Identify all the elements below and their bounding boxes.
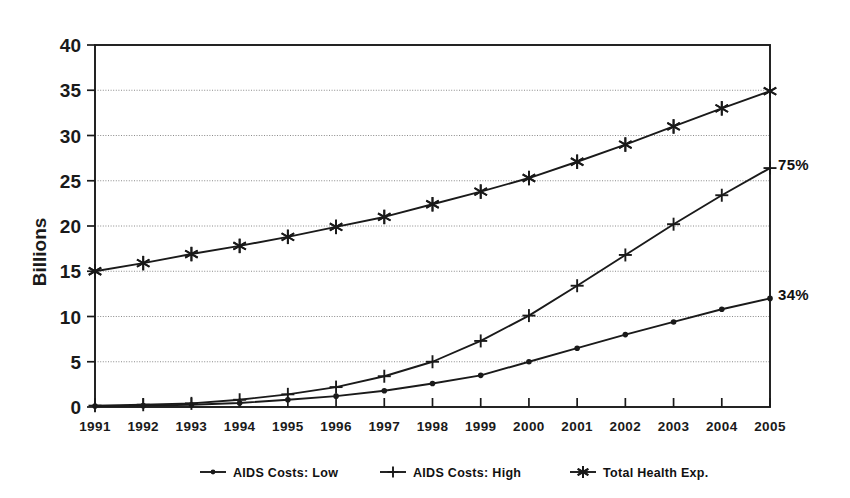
- x-tick-label: 2000: [513, 419, 545, 434]
- marker-dot: [671, 319, 677, 325]
- annotation-label: 75%: [778, 156, 809, 173]
- legend-label: Total Health Exp.: [603, 466, 709, 480]
- y-tick-label: 0: [70, 397, 81, 418]
- y-tick-label: 20: [60, 216, 81, 237]
- x-tick-label: 1995: [272, 419, 304, 434]
- legend-label: AIDS Costs: Low: [233, 466, 338, 480]
- marker-dot: [430, 381, 436, 387]
- marker-dot: [526, 359, 532, 365]
- x-tick-label: 1994: [224, 419, 256, 434]
- y-axis-title: Billions: [29, 218, 50, 287]
- marker-dot: [719, 306, 725, 312]
- marker-dot: [381, 388, 387, 394]
- y-tick-label: 35: [60, 80, 82, 101]
- marker-dot: [574, 345, 580, 351]
- x-tick-label: 2003: [658, 419, 690, 434]
- line-chart: 0510152025303540 19911992199319941995199…: [0, 0, 850, 498]
- marker-dot: [333, 393, 339, 399]
- legend-label: AIDS Costs: High: [413, 466, 521, 480]
- x-tick-label: 2001: [561, 419, 593, 434]
- marker-dot: [211, 470, 216, 475]
- y-tick-label: 25: [60, 171, 82, 192]
- x-tick-label: 1997: [368, 419, 400, 434]
- y-tick-label: 30: [60, 126, 81, 147]
- marker-dot: [767, 296, 773, 302]
- marker-dot: [478, 373, 484, 379]
- x-tick-label: 2002: [610, 419, 642, 434]
- x-tick-label: 2005: [754, 419, 786, 434]
- y-tick-label: 10: [60, 307, 81, 328]
- marker-dot: [623, 332, 629, 338]
- y-tick-label: 15: [60, 261, 82, 282]
- x-tick-label: 1991: [79, 419, 111, 434]
- chart-legend: AIDS Costs: LowAIDS Costs: HighTotal Hea…: [200, 466, 709, 480]
- chart-container: 0510152025303540 19911992199319941995199…: [0, 0, 850, 498]
- annotation-label: 34%: [778, 286, 809, 303]
- x-tick-label: 1992: [127, 419, 159, 434]
- y-tick-label: 40: [60, 35, 81, 56]
- x-tick-label: 1999: [465, 419, 497, 434]
- x-tick-label: 1996: [320, 419, 352, 434]
- x-tick-label: 1993: [176, 419, 208, 434]
- x-tick-label: 1998: [417, 419, 449, 434]
- x-axis-tick-labels: 1991199219931994199519961997199819992000…: [79, 419, 786, 434]
- y-tick-label: 5: [70, 352, 81, 373]
- x-tick-label: 2004: [706, 419, 738, 434]
